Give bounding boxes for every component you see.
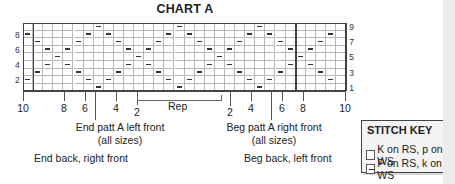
chart-cell <box>94 69 104 77</box>
purl-dash-icon <box>177 86 182 87</box>
chart-cell <box>195 76 205 84</box>
chart-cell <box>225 38 235 46</box>
chart-cell <box>245 53 255 61</box>
chart-cell <box>154 76 164 84</box>
chart-cell <box>296 46 306 54</box>
column-label: 6 <box>279 102 285 114</box>
end-left-front-note: End patt A left front (all sizes) <box>50 121 190 146</box>
chart-cell <box>124 61 134 69</box>
chart-cell <box>33 53 43 61</box>
purl-dash-icon <box>288 64 293 65</box>
chart-cell <box>185 53 195 61</box>
chart-cell <box>296 31 306 39</box>
chart-cell <box>144 76 154 84</box>
chart-cell <box>265 76 275 84</box>
chart-cell <box>43 61 53 69</box>
knitting-chart-grid <box>23 23 346 91</box>
chart-cell <box>74 46 84 54</box>
chart-cell <box>276 61 286 69</box>
grid-section-line <box>33 23 34 91</box>
chart-cell <box>164 46 174 54</box>
chart-cell <box>74 53 84 61</box>
purl-dash-icon <box>177 26 182 27</box>
chart-cell <box>276 46 286 54</box>
purl-dash-icon <box>156 41 161 42</box>
chart-cell <box>205 53 215 61</box>
purl-dash-icon <box>106 33 111 34</box>
chart-cell <box>164 61 174 69</box>
column-label: 8 <box>61 102 67 114</box>
chart-cell <box>74 69 84 77</box>
chart-cell <box>255 76 265 84</box>
beg-back-left-front-note: Beg back, left front <box>244 152 332 165</box>
purl-dash-icon <box>247 33 252 34</box>
chart-cell <box>205 38 215 46</box>
purl-dash-icon <box>278 71 283 72</box>
purl-dash-icon <box>197 71 202 72</box>
chart-cell <box>235 53 245 61</box>
chart-cell <box>245 31 255 39</box>
chart-cell <box>316 38 326 46</box>
chart-cell <box>104 76 114 84</box>
chart-cell <box>225 46 235 54</box>
purl-dash-icon <box>308 48 313 49</box>
purl-dash-icon <box>207 48 212 49</box>
chart-cell <box>245 61 255 69</box>
column-label: 4 <box>113 102 119 114</box>
purl-dash-icon <box>86 33 91 34</box>
chart-cell <box>33 38 43 46</box>
chart-cell <box>124 76 134 84</box>
chart-cell <box>326 61 336 69</box>
beg-right-front-line1: Beg patt A right front <box>224 121 324 134</box>
chart-cell <box>104 53 114 61</box>
chart-cell <box>205 46 215 54</box>
row-label-right: 1 <box>349 83 354 93</box>
chart-cell <box>225 61 235 69</box>
purl-dash-icon <box>116 41 121 42</box>
purl-dash-icon <box>35 41 40 42</box>
chart-cell <box>94 61 104 69</box>
chart-cell <box>265 69 275 77</box>
column-tick <box>282 92 283 101</box>
chart-cell <box>43 76 53 84</box>
page-edge <box>443 0 455 184</box>
chart-cell <box>154 61 164 69</box>
chart-cell <box>23 38 33 46</box>
chart-cell <box>164 69 174 77</box>
chart-cell <box>144 61 154 69</box>
chart-cell <box>215 69 225 77</box>
chart-cell <box>104 61 114 69</box>
chart-cell <box>104 31 114 39</box>
chart-cell <box>63 53 73 61</box>
chart-cell <box>63 38 73 46</box>
chart-cell <box>94 38 104 46</box>
chart-cell <box>265 38 275 46</box>
stitch-key: STITCH KEY K on RS, p on WS P on RS, k o… <box>361 120 455 173</box>
rep-left-marker <box>137 92 138 96</box>
purl-dash-icon <box>308 64 313 65</box>
chart-cell <box>53 31 63 39</box>
purl-dash-icon <box>156 71 161 72</box>
purl-dash-icon <box>227 48 232 49</box>
column-tick <box>85 92 86 101</box>
chart-cell <box>53 46 63 54</box>
grid-top-border <box>23 23 346 24</box>
chart-cell <box>195 31 205 39</box>
end-left-front-line2: (all sizes) <box>50 134 190 147</box>
chart-cell <box>235 38 245 46</box>
column-label: 6 <box>82 102 88 114</box>
chart-cell <box>286 38 296 46</box>
chart-cell <box>134 76 144 84</box>
chart-cell <box>134 53 144 61</box>
column-label: 4 <box>248 102 254 114</box>
chart-cell <box>215 61 225 69</box>
column-label: 8 <box>300 102 306 114</box>
chart-cell <box>33 61 43 69</box>
chart-cell <box>245 76 255 84</box>
chart-cell <box>265 46 275 54</box>
chart-cell <box>84 38 94 46</box>
purl-dash-icon <box>126 48 131 49</box>
chart-cell <box>144 38 154 46</box>
chart-cell <box>74 38 84 46</box>
purl-dash-icon <box>146 48 151 49</box>
